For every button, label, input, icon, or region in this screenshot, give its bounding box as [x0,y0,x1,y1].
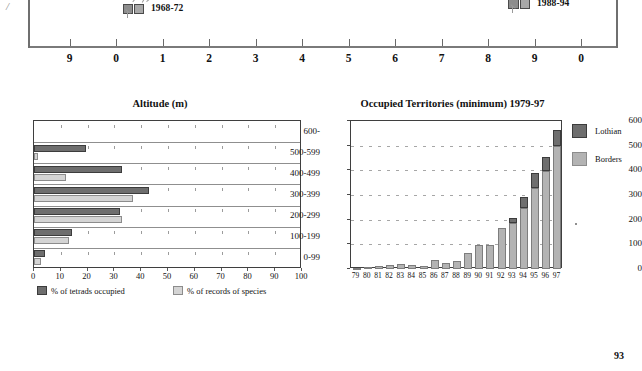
occupied-bar-borders [431,260,439,269]
occupied-x-label: 90 [475,271,483,280]
grid-dot [222,167,223,170]
grid-dot [222,125,223,128]
altitude-bar-tetrads [34,229,72,236]
occupied-legend-label: Lothian [595,126,621,136]
grid-dot [248,125,249,128]
grid-dot [114,231,115,234]
altitude-y-label: 200-299 [290,210,320,220]
altitude-x-label: 10 [56,271,65,281]
occupied-bar-borders [531,188,539,269]
occupied-x-label: 91 [486,271,494,280]
axis-tick [535,39,536,46]
axis-tick [395,39,396,46]
occupied-x-label: 86 [430,271,438,280]
occupied-y-label: 500 [616,140,642,150]
altitude-x-label: 30 [109,271,118,281]
occupied-bar-lothian [509,218,517,224]
row-separator [34,248,300,249]
altitude-bar-records [34,153,38,160]
occupied-bar-borders [353,268,361,270]
axis-tick-label: 1 [160,52,166,64]
occupied-plot-area [350,120,562,268]
occupied-bar-lothian [520,197,528,207]
altitude-bar-records [34,237,69,244]
grid-dot [222,188,223,191]
decade-year-axis: 901234567890 [30,46,616,76]
altitude-x-label: 0 [31,271,35,281]
occupied-y-label: 0 [616,263,642,273]
occupied-x-label: 84 [408,271,416,280]
grid-dot [114,125,115,128]
grid-dot [168,188,169,191]
distribution-map-panel: / 1968-72 1988-94 901234567890 [0,0,642,92]
grid-dot [168,125,169,128]
occupied-x-label: 87 [441,271,449,280]
grid-dot [275,231,276,234]
row-separator [34,142,300,143]
altitude-y-label: 100-199 [290,231,320,241]
map-marker [520,0,530,9]
grid-dot [195,146,196,149]
axis-tick [256,39,257,46]
map-label-1968-72: 1968-72 [151,3,183,13]
occupied-bar-borders [453,261,461,269]
occupied-bar-lothian [553,130,561,145]
altitude-x-label: 70 [216,271,225,281]
occupied-y-label: 600 [616,115,642,125]
altitude-x-label: 20 [82,271,91,281]
axis-tick-label: 0 [113,52,119,64]
altitude-legend-swatch [173,286,183,295]
grid-dot [222,231,223,234]
altitude-bar-tetrads [34,145,86,152]
axis-tick [488,39,489,46]
grid-dot [248,231,249,234]
grid-dot [114,252,115,255]
occupied-bar-borders [397,264,405,269]
occupied-x-label: 82 [385,271,393,280]
altitude-chart-title: Altitude (m) [0,98,320,109]
altitude-legend-swatch [37,286,47,295]
grid-dot [168,252,169,255]
axis-tick-label: 3 [253,52,259,64]
occupied-bar-borders [486,245,494,269]
map-label-1988-94: 1988-94 [537,0,569,8]
grid-dot [141,125,142,128]
occupied-y-tick [347,219,350,220]
occupied-x-label: 93 [508,271,516,280]
map-thumbnail-1988-94: 1988-94 [505,0,615,28]
grid-dot [141,209,142,212]
occupied-y-label: 300 [616,189,642,199]
axis-tick [209,39,210,46]
axis-tick-label: 0 [578,52,584,64]
grid-dot [88,146,89,149]
gridline [351,195,561,196]
occupied-bar-borders [498,228,506,269]
gridline [351,146,561,147]
altitude-bar-tetrads [34,208,120,215]
occupied-y-tick [347,145,350,146]
grid-dot [195,125,196,128]
row-separator [34,227,300,228]
occupied-bar-borders [520,208,528,269]
occupied-bar-borders [408,265,416,269]
altitude-legend-label: % of tetrads occupied [51,286,125,296]
occupied-x-label: 95 [530,271,538,280]
grid-dot [275,209,276,212]
occupied-bar-borders [509,223,517,269]
occupied-x-label: 96 [542,271,550,280]
occupied-y-tick [347,194,350,195]
axis-line [30,46,616,48]
grid-dot [248,167,249,170]
grid-dot [275,252,276,255]
axis-tick [442,39,443,46]
occupied-bar-borders [375,266,383,269]
grid-dot [141,167,142,170]
scan-artifact [575,223,577,225]
page-number: 93 [614,350,624,361]
altitude-x-label: 50 [163,271,172,281]
occupied-legend-label: Borders [595,154,622,164]
axis-tick [163,39,164,46]
grid-dot [88,231,89,234]
occupied-legend-swatch [572,152,587,166]
altitude-x-label: 80 [243,271,252,281]
